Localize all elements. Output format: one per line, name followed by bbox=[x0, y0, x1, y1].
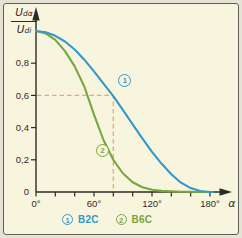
x-axis-label: α bbox=[225, 197, 239, 210]
y-tick-label: 0,2 bbox=[16, 154, 29, 165]
x-axis-arrow-icon bbox=[220, 188, 233, 196]
legend-item-b6c: 2 B6C bbox=[116, 214, 153, 225]
legend-label-b2c: B2C bbox=[78, 214, 99, 225]
legend-badge-2: 2 bbox=[116, 214, 127, 225]
legend-badge-1: 1 bbox=[62, 214, 73, 225]
legend: 1 B2C 2 B6C bbox=[62, 214, 152, 225]
y-tick-label: 0,8 bbox=[16, 57, 29, 68]
y-axis-label-denominator: Udi bbox=[11, 22, 37, 37]
x-tick-label: 0° bbox=[31, 198, 40, 209]
plot-layer: 0°60°120°180°00,20,40,60,8 Udα Udi α 12 … bbox=[0, 0, 242, 238]
y-tick-label: 0,6 bbox=[16, 90, 29, 101]
y-tick-label: 0,4 bbox=[16, 122, 29, 133]
legend-label-b6c: B6C bbox=[132, 214, 153, 225]
x-tick-label: 120° bbox=[142, 198, 162, 209]
guide-dashed-lines bbox=[37, 95, 113, 191]
curve-b2c bbox=[36, 31, 213, 192]
y-axis-label-numerator: Udα bbox=[11, 6, 37, 22]
x-tick-label: 60° bbox=[87, 198, 102, 209]
x-tick-label: 180° bbox=[200, 198, 220, 209]
legend-item-b2c: 1 B2C bbox=[62, 214, 99, 225]
figure-control-characteristic: 0°60°120°180°00,20,40,60,8 Udα Udi α 12 … bbox=[0, 0, 242, 238]
y-axis-label: Udα Udi bbox=[11, 6, 37, 37]
y-tick-label: 0 bbox=[24, 186, 29, 197]
